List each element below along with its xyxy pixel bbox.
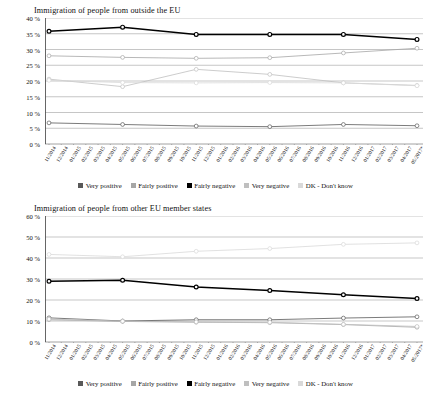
- chart-svg: [45, 216, 423, 343]
- legend-swatch-icon: [131, 183, 136, 188]
- data-point-marker: [415, 38, 419, 42]
- legend-label: Very positive: [86, 380, 122, 387]
- series-line: [49, 48, 417, 58]
- chart-block-outside-eu: Immigration of people from outside the E…: [0, 0, 431, 198]
- x-axis-labels: 11/201412/201401/201502/201503/201504/20…: [45, 145, 423, 179]
- plot-canvas: [45, 18, 423, 144]
- y-axis-tick-label: 40 %: [26, 255, 40, 262]
- data-point-marker: [121, 55, 125, 59]
- x-axis-tick-label: 08/2016: [300, 145, 314, 163]
- legend-swatch-icon: [187, 183, 192, 188]
- legend-label: Fairly positive: [138, 182, 177, 189]
- legend-item[interactable]: Very negative: [244, 380, 289, 387]
- chart-legend: Very positiveFairly positiveFairly negat…: [0, 380, 431, 387]
- legend-item[interactable]: Very negative: [244, 182, 289, 189]
- data-point-marker: [342, 242, 346, 246]
- legend-item[interactable]: Very positive: [78, 380, 122, 387]
- series-line: [49, 280, 417, 298]
- data-point-marker: [47, 54, 51, 58]
- legend-swatch-icon: [78, 381, 83, 386]
- data-point-marker: [268, 289, 272, 293]
- plot-canvas: [45, 216, 423, 342]
- legend-swatch-icon: [78, 183, 83, 188]
- legend-label: Fairly negative: [194, 380, 235, 387]
- x-axis-tick-label: 01/2015: [67, 343, 81, 361]
- data-point-marker: [47, 279, 51, 283]
- data-point-marker: [342, 293, 346, 297]
- data-point-marker: [342, 51, 346, 55]
- data-point-marker: [194, 56, 198, 60]
- chart-page: Immigration of people from outside the E…: [0, 0, 431, 396]
- data-point-marker: [47, 29, 51, 33]
- data-point-marker: [415, 84, 419, 88]
- data-point-marker: [194, 81, 198, 85]
- series-line: [49, 123, 417, 127]
- legend-label: DK - Don't know: [306, 182, 353, 189]
- data-point-marker: [415, 124, 419, 128]
- legend-item[interactable]: Fairly negative: [187, 182, 235, 189]
- data-point-marker: [47, 78, 51, 82]
- y-axis-tick-label: 30 %: [26, 46, 40, 53]
- y-axis-labels: 0 %5 %10 %15 %20 %25 %30 %35 %40 %: [0, 18, 44, 144]
- plot-area-other-eu: 0 %10 %20 %30 %40 %50 %60 %: [0, 216, 431, 342]
- data-point-marker: [194, 249, 198, 253]
- data-point-marker: [47, 121, 51, 125]
- chart-title: Immigration of people from outside the E…: [34, 6, 180, 15]
- data-point-marker: [194, 124, 198, 128]
- data-point-marker: [121, 85, 125, 89]
- legend-swatch-icon: [298, 381, 303, 386]
- legend-item[interactable]: Fairly positive: [131, 182, 178, 189]
- x-axis-labels: 11/201412/201401/201502/201503/201504/20…: [45, 343, 423, 377]
- legend-item[interactable]: Very positive: [78, 182, 122, 189]
- x-axis-tick-label: 04/2016: [251, 145, 265, 163]
- data-point-marker: [268, 32, 272, 36]
- data-point-marker: [121, 319, 125, 323]
- y-axis-tick-label: 60 %: [26, 213, 40, 220]
- y-axis-tick-label: 25 %: [26, 62, 40, 69]
- data-point-marker: [415, 297, 419, 301]
- y-axis-tick-label: 40 %: [26, 15, 40, 22]
- data-point-marker: [268, 81, 272, 85]
- chart-title: Immigration of people from other EU memb…: [34, 204, 211, 213]
- data-point-marker: [194, 320, 198, 324]
- x-axis-tick-label: 05/2015: [116, 343, 130, 361]
- y-axis-tick-label: 0 %: [30, 141, 40, 148]
- data-point-marker: [342, 81, 346, 85]
- data-point-marker: [268, 247, 272, 251]
- data-point-marker: [121, 255, 125, 259]
- data-point-marker: [194, 285, 198, 289]
- legend-item[interactable]: Fairly positive: [131, 380, 178, 387]
- y-axis-labels: 0 %10 %20 %30 %40 %50 %60 %: [0, 216, 44, 342]
- legend-item[interactable]: DK - Don't know: [298, 182, 353, 189]
- y-axis-tick-label: 20 %: [26, 297, 40, 304]
- y-axis-tick-label: 5 %: [30, 125, 40, 132]
- data-point-marker: [194, 32, 198, 36]
- legend-swatch-icon: [131, 381, 136, 386]
- legend-label: Very positive: [86, 182, 122, 189]
- x-axis-tick-label: 05/2015: [116, 145, 130, 163]
- y-axis-tick-label: 10 %: [26, 318, 40, 325]
- data-point-marker: [268, 125, 272, 129]
- data-point-marker: [342, 32, 346, 36]
- legend-item[interactable]: Fairly negative: [187, 380, 235, 387]
- y-axis-tick-label: 15 %: [26, 93, 40, 100]
- legend-label: Very negative: [252, 380, 290, 387]
- data-point-marker: [268, 56, 272, 60]
- y-axis-tick-label: 10 %: [26, 109, 40, 116]
- legend-swatch-icon: [244, 183, 249, 188]
- legend-item[interactable]: DK - Don't know: [298, 380, 353, 387]
- data-point-marker: [342, 322, 346, 326]
- legend-label: Very negative: [252, 182, 290, 189]
- data-point-marker: [268, 320, 272, 324]
- data-point-marker: [121, 25, 125, 29]
- data-point-marker: [194, 67, 198, 71]
- x-axis-tick-label: 08/2016: [300, 343, 314, 361]
- chart-legend: Very positiveFairly positiveFairly negat…: [0, 182, 431, 189]
- x-axis-tick-label: 01/2015: [67, 145, 81, 163]
- legend-swatch-icon: [244, 381, 249, 386]
- data-point-marker: [415, 241, 419, 245]
- data-point-marker: [121, 123, 125, 127]
- data-point-marker: [342, 316, 346, 320]
- data-point-marker: [121, 278, 125, 282]
- series-line: [49, 69, 417, 86]
